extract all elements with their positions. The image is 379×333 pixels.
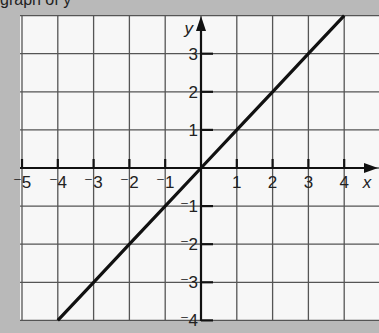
x-tick-label: ⁻4 (49, 173, 67, 192)
y-tick-label: ⁻2 (180, 235, 198, 254)
y-tick-label: ⁻4 (180, 311, 198, 330)
x-tick-label: ⁻5 (13, 173, 31, 192)
x-tick-label: 4 (339, 173, 348, 192)
x-tick-label: ⁻1 (156, 173, 174, 192)
y-axis-label: y (184, 19, 195, 38)
y-tick-label: 3 (189, 45, 198, 64)
y-tick-label: ⁻3 (180, 273, 198, 292)
x-tick-label: 2 (268, 173, 277, 192)
x-tick-label: ⁻2 (120, 173, 138, 192)
x-tick-label: 1 (232, 173, 241, 192)
y-tick-label: 1 (189, 121, 198, 140)
x-tick-label: 3 (304, 173, 313, 192)
x-axis-label: x (362, 173, 372, 192)
y-tick-label: ⁻1 (180, 197, 198, 216)
x-tick-label: ⁻3 (84, 173, 102, 192)
coordinate-graph: ⁻5⁻4⁻3⁻2⁻11234321⁻1⁻2⁻3⁻4xy (0, 0, 379, 333)
y-tick-label: 2 (189, 83, 198, 102)
